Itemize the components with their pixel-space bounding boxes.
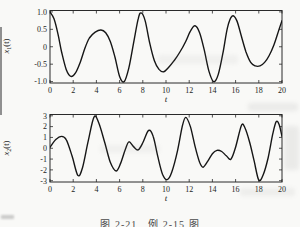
subplot-1: 024681012141618201.00.50-0.5-1.0tx1(t)	[1, 8, 286, 104]
y-tick-label: 0	[43, 144, 47, 153]
x-tick-label: 2	[71, 86, 75, 95]
x-tick-label: 16	[232, 185, 240, 194]
x-tick-label: 0	[48, 185, 52, 194]
x-tick-label: 8	[141, 185, 145, 194]
x-tick-label: 8	[141, 86, 145, 95]
x-axis-label: t	[165, 94, 168, 104]
x-tick-label: 2	[71, 185, 75, 194]
x-tick-label: 12	[185, 185, 193, 194]
x-tick-label: 4	[94, 185, 98, 194]
x-tick-label: 12	[185, 86, 193, 95]
y-tick-label: -3	[40, 177, 47, 186]
figure-canvas: 024681012141618201.00.50-0.5-1.0tx1(t)02…	[0, 0, 300, 227]
y-axis-label: x1(t)	[1, 38, 12, 54]
y-tick-label: 3	[43, 112, 47, 121]
scan-edge-artifact	[0, 27, 2, 115]
x-tick-label: 14	[208, 185, 216, 194]
subplot-2: 024681012141618203210-1-2-3tx2(t)	[1, 112, 286, 203]
y-tick-label: -1.0	[34, 77, 47, 86]
x-tick-label: 20	[278, 185, 286, 194]
x-tick-label: 14	[208, 86, 216, 95]
y-tick-label: 0	[43, 43, 47, 52]
x-tick-label: 18	[255, 185, 263, 194]
x-tick-label: 6	[118, 185, 122, 194]
scanned-page: 024681012141618201.00.50-0.5-1.0tx1(t)02…	[0, 0, 300, 227]
y-tick-label: 2	[43, 122, 47, 131]
y-tick-label: -2	[40, 166, 47, 175]
y-tick-label: -1	[40, 155, 47, 164]
plot-box	[50, 115, 282, 183]
x-tick-label: 6	[118, 86, 122, 95]
x-tick-label: 0	[48, 86, 52, 95]
x-tick-label: 4	[94, 86, 98, 95]
y-tick-label: 0.5	[37, 25, 47, 34]
y-tick-label: 1	[43, 133, 47, 142]
y-tick-label: -0.5	[34, 60, 47, 69]
x-axis-label: t	[165, 193, 168, 203]
x-tick-label: 16	[232, 86, 240, 95]
y-tick-label: 1.0	[37, 8, 47, 17]
figure-caption: 图 2-21 例 2-15 图	[0, 218, 300, 227]
y-axis-label: x2(t)	[1, 140, 12, 156]
signal-curve	[50, 116, 282, 181]
x-tick-label: 18	[255, 86, 263, 95]
signal-curve	[50, 12, 282, 82]
x-tick-label: 20	[278, 86, 286, 95]
